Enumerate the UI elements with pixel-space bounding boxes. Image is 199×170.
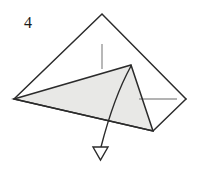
origami-diagram: 4: [0, 0, 199, 170]
shaded-flap: [14, 65, 153, 131]
step-number-label: 4: [24, 14, 32, 32]
fold-down-arrow-head-icon: [93, 147, 108, 160]
